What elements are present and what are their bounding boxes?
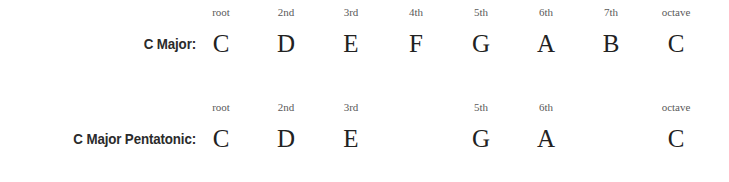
degree-label: 6th	[514, 99, 578, 115]
note-letter: E	[319, 28, 383, 60]
degree-label: root	[189, 99, 253, 115]
degree-header-row: root2nd3rd5th6thoctave	[0, 99, 729, 119]
degree-label: octave	[644, 4, 708, 20]
degree-label: 3rd	[319, 4, 383, 20]
degree-label: 5th	[449, 99, 513, 115]
note-letter: A	[514, 123, 578, 155]
scale-degree-chart: C Major:root2nd3rd4th5th6th7thoctaveCDEF…	[0, 0, 729, 182]
degree-label: 4th	[384, 4, 448, 20]
scale-row: C Major Pentatonic:root2nd3rd5th6thoctav…	[0, 99, 729, 171]
degree-label: 7th	[579, 4, 643, 20]
note-letter: G	[449, 28, 513, 60]
degree-label: root	[189, 4, 253, 20]
note-letter: C	[644, 123, 708, 155]
note-letter: G	[449, 123, 513, 155]
scale-row: C Major:root2nd3rd4th5th6th7thoctaveCDEF…	[0, 4, 729, 76]
degree-label: 2nd	[254, 99, 318, 115]
degree-label: 5th	[449, 4, 513, 20]
note-letter: E	[319, 123, 383, 155]
note-letter: D	[254, 123, 318, 155]
degree-label: 2nd	[254, 4, 318, 20]
note-letter: B	[579, 28, 643, 60]
note-letter: C	[644, 28, 708, 60]
note-letter: C	[189, 28, 253, 60]
note-letter: C	[189, 123, 253, 155]
degree-header-row: root2nd3rd4th5th6th7thoctave	[0, 4, 729, 24]
note-letter: D	[254, 28, 318, 60]
degree-label: 6th	[514, 4, 578, 20]
note-letter: F	[384, 28, 448, 60]
degree-label: octave	[644, 99, 708, 115]
note-letter-row: CDEGAC	[0, 123, 729, 163]
degree-label: 3rd	[319, 99, 383, 115]
note-letter-row: CDEFGABC	[0, 28, 729, 68]
note-letter: A	[514, 28, 578, 60]
